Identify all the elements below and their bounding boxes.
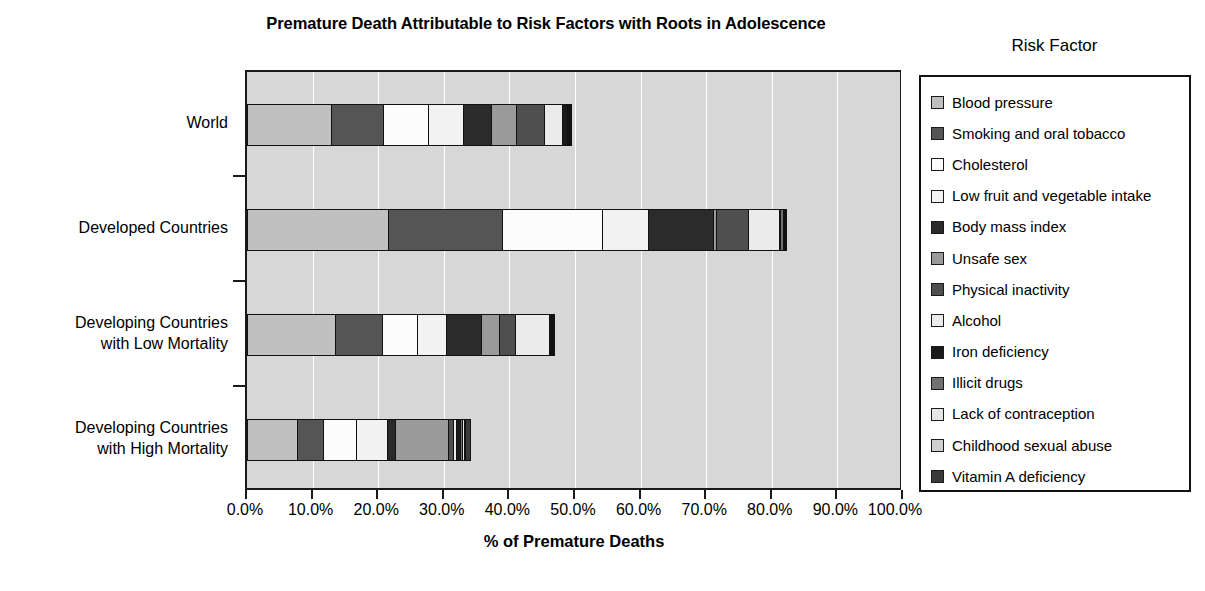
- legend-swatch-icon: [931, 346, 944, 359]
- legend-item[interactable]: Smoking and oral tobacco: [931, 118, 1189, 149]
- legend-swatch-icon: [931, 127, 944, 140]
- stacked-bars-group: [247, 72, 900, 488]
- legend-item[interactable]: Lack of contraception: [931, 399, 1189, 430]
- bar-segment[interactable]: [247, 419, 298, 461]
- bar-segment[interactable]: [716, 209, 749, 251]
- x-axis-tick-label: 20.0%: [354, 501, 399, 519]
- legend-item[interactable]: Physical inactivity: [931, 274, 1189, 305]
- legend-item[interactable]: Childhood sexual abuse: [931, 430, 1189, 461]
- bar-segment[interactable]: [356, 419, 389, 461]
- legend-swatch-icon: [931, 314, 944, 327]
- x-axis-tick-label: 60.0%: [616, 501, 661, 519]
- legend-swatch-icon: [931, 221, 944, 234]
- x-axis-ticks: [245, 490, 903, 500]
- bar-row: [247, 314, 555, 356]
- legend-swatch-icon: [931, 408, 944, 421]
- bar-segment[interactable]: [383, 104, 429, 146]
- bar-segment[interactable]: [247, 104, 332, 146]
- legend-item-label: Physical inactivity: [952, 282, 1070, 298]
- x-axis-tick: [245, 490, 247, 499]
- x-axis-tick: [901, 490, 903, 499]
- bar-segment[interactable]: [388, 209, 503, 251]
- x-axis-tick-label: 10.0%: [288, 501, 333, 519]
- bar-segment[interactable]: [428, 104, 464, 146]
- x-axis-tick-label: 30.0%: [419, 501, 464, 519]
- bar-segment[interactable]: [247, 209, 389, 251]
- y-axis-category-label: Developing Countries with Low Mortality: [75, 312, 228, 354]
- legend-item-label: Cholesterol: [952, 157, 1028, 173]
- legend-item[interactable]: Illicit drugs: [931, 368, 1189, 399]
- legend-swatch-icon: [931, 283, 944, 296]
- legend-item[interactable]: Alcohol: [931, 305, 1189, 336]
- legend-item[interactable]: Cholesterol: [931, 149, 1189, 180]
- x-axis-tick: [311, 490, 313, 499]
- y-axis-category-label: Developing Countries with High Mortality: [75, 417, 228, 459]
- bar-segment[interactable]: [553, 314, 555, 356]
- y-axis-tick: [233, 385, 245, 387]
- x-axis-tick: [507, 490, 509, 499]
- y-axis-category-label: World: [187, 112, 229, 133]
- bar-segment[interactable]: [491, 104, 517, 146]
- legend-item-label: Illicit drugs: [952, 375, 1023, 391]
- bar-segment[interactable]: [648, 209, 714, 251]
- bar-segment[interactable]: [395, 419, 449, 461]
- bar-segment[interactable]: [463, 104, 493, 146]
- y-axis-category-label: Developed Countries: [79, 217, 228, 238]
- x-axis-tick-labels: 0.0%10.0%20.0%30.0%40.0%50.0%60.0%70.0%8…: [0, 501, 1205, 525]
- bar-segment[interactable]: [446, 314, 483, 356]
- bar-segment[interactable]: [785, 209, 787, 251]
- legend-item[interactable]: Blood pressure: [931, 87, 1189, 118]
- bar-segment[interactable]: [544, 104, 564, 146]
- bar-segment[interactable]: [465, 419, 472, 461]
- bar-segment[interactable]: [516, 104, 544, 146]
- x-axis-title: % of Premature Deaths: [245, 532, 903, 551]
- x-axis-tick: [639, 490, 641, 499]
- x-axis-tick-label: 70.0%: [682, 501, 727, 519]
- x-axis-tick: [704, 490, 706, 499]
- bar-segment[interactable]: [331, 104, 383, 146]
- bar-segment[interactable]: [515, 314, 549, 356]
- legend-item[interactable]: Iron deficiency: [931, 337, 1189, 368]
- x-axis-tick-label: 90.0%: [813, 501, 858, 519]
- legend-item[interactable]: Body mass index: [931, 212, 1189, 243]
- y-axis-ticks: [233, 70, 245, 490]
- bar-segment[interactable]: [323, 419, 356, 461]
- legend-item[interactable]: Vitamin A deficiency: [931, 461, 1189, 492]
- y-axis-category-labels: WorldDeveloped CountriesDeveloping Count…: [0, 70, 238, 490]
- bar-segment[interactable]: [382, 314, 417, 356]
- legend-swatch-icon: [931, 377, 944, 390]
- plot-area: [245, 70, 901, 490]
- bar-segment[interactable]: [570, 104, 572, 146]
- bar-row: [247, 419, 471, 461]
- x-axis-tick-label: 80.0%: [747, 501, 792, 519]
- bar-segment[interactable]: [335, 314, 383, 356]
- legend-swatch-icon: [931, 470, 944, 483]
- legend-swatch-icon: [931, 158, 944, 171]
- legend-item-label: Unsafe sex: [952, 251, 1027, 267]
- bar-segment[interactable]: [417, 314, 447, 356]
- x-axis-tick: [442, 490, 444, 499]
- bar-segment[interactable]: [502, 209, 603, 251]
- x-axis-tick: [573, 490, 575, 499]
- bar-segment[interactable]: [602, 209, 649, 251]
- bar-segment[interactable]: [499, 314, 516, 356]
- legend-item-label: Vitamin A deficiency: [952, 469, 1085, 485]
- legend-item-label: Body mass index: [952, 219, 1066, 235]
- legend-item-label: Smoking and oral tobacco: [952, 126, 1125, 142]
- bar-segment[interactable]: [481, 314, 500, 356]
- bar-segment[interactable]: [247, 314, 336, 356]
- legend-item[interactable]: Low fruit and vegetable intake: [931, 181, 1189, 212]
- chart-title: Premature Death Attributable to Risk Fac…: [196, 14, 896, 33]
- x-axis-tick-label: 40.0%: [485, 501, 530, 519]
- bar-segment[interactable]: [297, 419, 324, 461]
- legend-swatch-icon: [931, 190, 944, 203]
- legend-item-label: Alcohol: [952, 313, 1001, 329]
- legend-item-label: Low fruit and vegetable intake: [952, 188, 1151, 204]
- bar-segment[interactable]: [748, 209, 780, 251]
- x-axis-tick-label: 100.0%: [868, 501, 922, 519]
- bar-row: [247, 104, 572, 146]
- legend-swatch-icon: [931, 439, 944, 452]
- legend-item[interactable]: Unsafe sex: [931, 243, 1189, 274]
- x-axis-tick-label: 0.0%: [227, 501, 263, 519]
- legend-item-label: Childhood sexual abuse: [952, 438, 1112, 454]
